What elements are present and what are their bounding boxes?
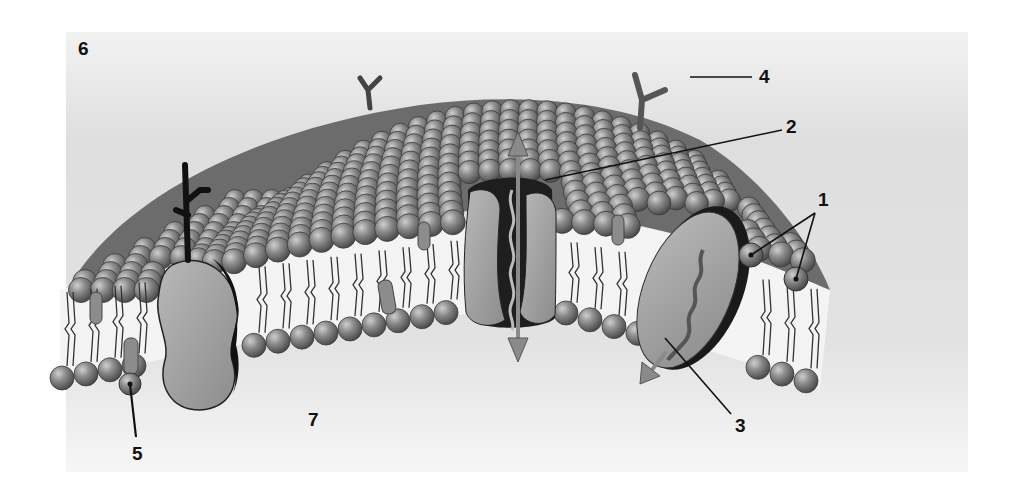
label-5: 5 [132,444,143,463]
label-2: 2 [786,117,797,136]
label-7: 7 [308,410,319,429]
label-4: 4 [759,67,770,86]
membrane-diagram [0,0,1009,482]
label-3: 3 [735,416,746,435]
label-6: 6 [78,39,89,58]
label-1: 1 [818,190,829,209]
